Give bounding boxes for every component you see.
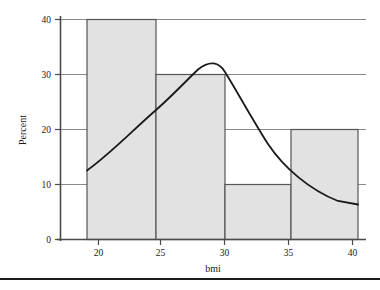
- bar-bin-3: [225, 185, 291, 240]
- y-tick-label-10: 10: [42, 180, 52, 190]
- chart-canvas: 40 30 20 10 0 20 25 30 35 40 bmi Percent: [0, 0, 380, 290]
- x-tick-label-25: 25: [156, 248, 166, 258]
- x-tick-label-35: 35: [284, 248, 294, 258]
- x-tick-label-20: 20: [94, 248, 104, 258]
- y-tick-label-40: 40: [42, 15, 52, 25]
- histogram-figure: 40 30 20 10 0 20 25 30 35 40 bmi Percent: [0, 0, 380, 290]
- x-axis-title: bmi: [205, 263, 221, 274]
- y-tick-label-0: 0: [46, 235, 51, 245]
- y-axis-title: Percent: [17, 115, 28, 145]
- bar-bin-4: [291, 130, 358, 240]
- y-tick-label-30: 30: [42, 70, 52, 80]
- y-tick-label-20: 20: [42, 125, 52, 135]
- x-tick-label-40: 40: [348, 248, 358, 258]
- bar-bin-2: [156, 75, 225, 240]
- bar-bin-1: [87, 20, 156, 240]
- x-tick-label-30: 30: [220, 248, 230, 258]
